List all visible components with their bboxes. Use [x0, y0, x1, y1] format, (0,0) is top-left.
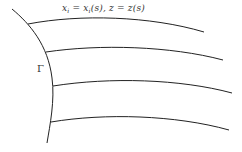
diagram-canvas: xi = xi(s), z = z(s) Γ: [0, 0, 242, 152]
boundary-curve-gamma: [12, 9, 53, 143]
characteristic-curve-3: [53, 81, 232, 93]
characteristic-curve-2: [46, 47, 223, 60]
characteristic-curve-4: [51, 117, 229, 130]
boundary-label-gamma: Γ: [37, 63, 44, 74]
characteristic-curve-1: [28, 18, 204, 32]
diagram-svg: [0, 0, 242, 152]
parametric-equation-label: xi = xi(s), z = z(s): [62, 3, 145, 14]
